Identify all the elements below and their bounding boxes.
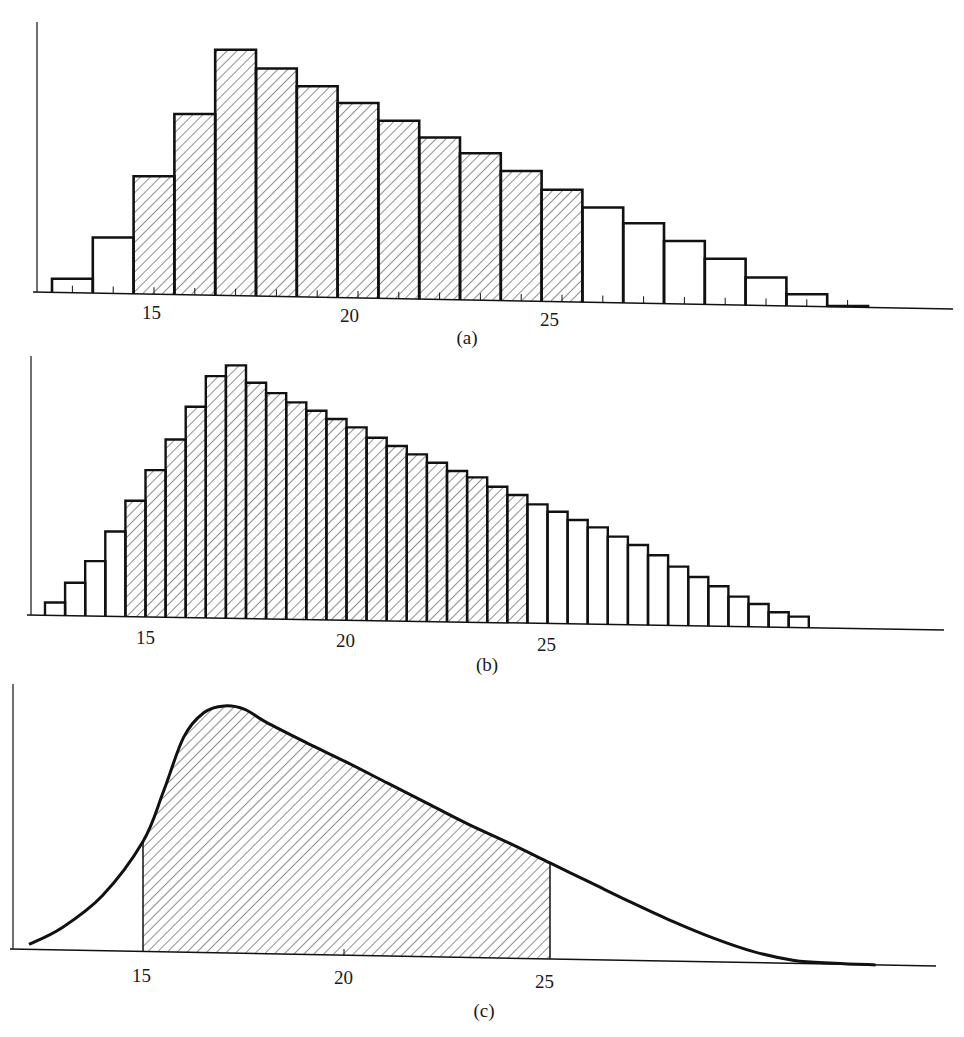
bar-hatch	[501, 171, 542, 301]
bar	[105, 531, 125, 616]
panel-b: 15 20 25 (b)	[27, 356, 944, 676]
bar	[93, 237, 134, 293]
bar-hatch	[407, 454, 427, 621]
bar-hatch	[427, 463, 447, 622]
bar-hatch	[467, 477, 487, 622]
bar-hatch	[226, 365, 246, 618]
bar	[608, 537, 628, 625]
bar-hatch	[378, 121, 419, 299]
bar	[728, 597, 748, 627]
panel-a-tick-25: 25	[540, 309, 559, 330]
bar-hatch	[246, 383, 266, 619]
panel-c-label: (c)	[473, 1000, 494, 1022]
bar-hatch	[166, 439, 186, 617]
bar	[789, 617, 809, 628]
bar-hatch	[286, 402, 306, 619]
figure: 15 20 25 (a) 15 20 25 (b) 15 20 25 (c)	[0, 0, 964, 1037]
bar	[769, 612, 789, 627]
bar	[664, 241, 705, 304]
panel-c: 15 20 25 (c)	[10, 684, 936, 1022]
panel-a-bars	[52, 50, 868, 308]
bar	[45, 602, 65, 615]
bar	[688, 577, 708, 626]
bar-hatch	[266, 393, 286, 619]
bar-hatch	[215, 50, 256, 296]
bar	[582, 208, 623, 303]
bar	[85, 561, 105, 616]
panel-b-tick-15: 15	[136, 627, 155, 648]
bar-hatch	[326, 419, 346, 620]
bar	[588, 527, 608, 624]
panel-b-tick-25: 25	[537, 634, 556, 655]
bar	[623, 223, 664, 303]
bar-hatch	[174, 114, 215, 295]
panel-b-tick-20: 20	[336, 630, 355, 651]
bar-hatch	[542, 190, 583, 302]
panel-a: 15 20 25 (a)	[33, 22, 953, 349]
bar-hatch	[367, 438, 387, 621]
bar-hatch	[419, 138, 460, 300]
panel-b-bars	[45, 365, 809, 627]
bar-hatch	[387, 446, 407, 621]
bar-hatch	[460, 153, 501, 300]
panel-b-label: (b)	[476, 654, 498, 676]
panel-a-tick-15: 15	[142, 302, 161, 323]
bar-hatch	[134, 176, 175, 294]
panel-a-tick-20: 20	[340, 305, 359, 326]
bar	[749, 604, 769, 627]
bar-hatch	[206, 376, 226, 618]
panel-c-tick-20: 20	[334, 967, 353, 988]
bar-hatch	[297, 86, 338, 297]
bar-hatch	[146, 470, 166, 617]
bar-hatch	[347, 427, 367, 620]
bar-hatch	[125, 501, 145, 617]
panel-c-tick-25: 25	[535, 971, 554, 992]
bar	[648, 555, 668, 625]
bar	[708, 586, 728, 626]
panel-a-label: (a)	[456, 327, 477, 349]
bar	[668, 567, 688, 626]
bar-hatch	[256, 68, 297, 296]
bar	[568, 520, 588, 624]
bar	[65, 583, 85, 616]
bar	[628, 545, 648, 625]
bar-hatch	[447, 471, 467, 622]
panel-c-tick-15: 15	[132, 965, 151, 986]
bar-hatch	[338, 103, 379, 298]
bar	[548, 512, 568, 624]
bar	[527, 504, 547, 623]
bar-hatch	[507, 495, 527, 623]
bar-hatch	[186, 407, 206, 618]
bar-hatch	[487, 487, 507, 623]
bar-hatch	[306, 411, 326, 620]
